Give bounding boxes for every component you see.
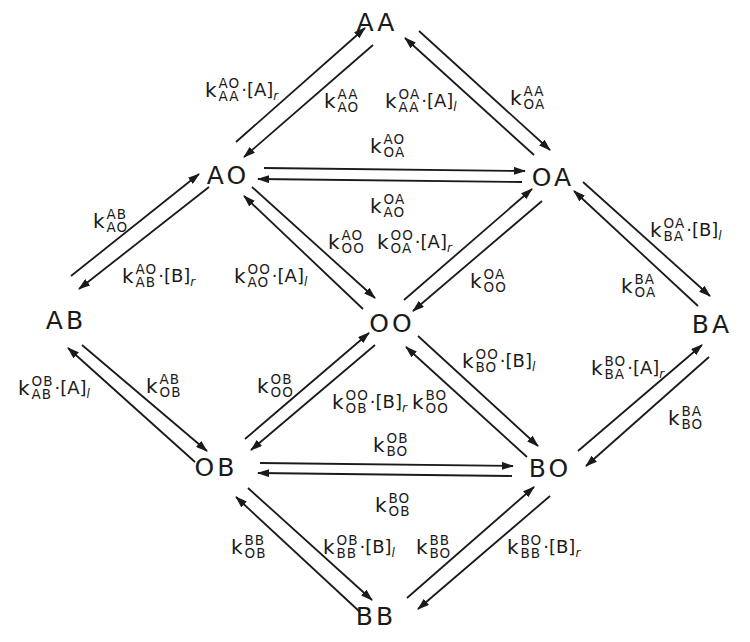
rate-label-ao-from-ab: k ABAO: [93, 208, 128, 234]
rate-label-ao-from-aa: k AAAO: [324, 88, 359, 114]
rate-label-ab-from-ob: k OBAB ·[A]l: [18, 375, 90, 401]
arrow-ab-to-ao: [71, 174, 199, 276]
rate-label-oo-from-ob: k OBOO: [257, 373, 294, 399]
arrow-ob-to-ab: [68, 348, 195, 462]
arrow-ob-to-bo: [260, 463, 513, 466]
state-node-ao: AO: [207, 163, 249, 188]
rate-label-oa-from-ba: k BAOA: [621, 273, 656, 299]
rate-label-aa-from-oa: k OAAA ·[A]l: [385, 88, 457, 114]
rate-label-ba-from-oa: k OABA ·[B]l: [650, 217, 722, 243]
rate-label-bo-from-bb: k BBBO: [416, 534, 451, 560]
rate-label-ob-from-ab: k ABOB: [146, 373, 181, 399]
arrow-ab-to-ob: [82, 345, 207, 451]
rate-label-oa-from-ao: k AOOA: [370, 133, 405, 159]
state-node-ob: OB: [195, 455, 238, 480]
rate-label-bo-from-ob: k OBBO: [373, 432, 408, 458]
rate-label-oo-from-oa: k OAOO: [470, 268, 507, 294]
arrow-bo-to-ob: [258, 473, 512, 476]
rate-label-bo-from-ba: k BABO: [668, 405, 703, 431]
rate-label-aa-from-ao: k AOAA ·[A]r: [205, 77, 278, 103]
arrow-ao-to-oa: [264, 168, 525, 171]
rate-label-oo-from-bo: k BOOO: [412, 389, 449, 415]
rate-label-oa-from-aa: k AAOA: [510, 85, 545, 111]
state-node-oa: OA: [532, 165, 574, 190]
rate-label-ob-from-bo: k BOOB: [375, 492, 410, 518]
state-node-aa: AA: [357, 10, 398, 35]
rate-label-bb-from-ob: k OBBB ·[B]l: [323, 534, 395, 560]
rate-label-oa-from-oo: k OOOA ·[A]r: [377, 229, 452, 255]
rate-label-ab-from-ao: k AOAB ·[B]r: [122, 263, 195, 289]
arrow-oa-to-ao: [258, 179, 522, 182]
rate-label-bb-from-bo: k BOBB ·[B]r: [507, 534, 580, 560]
state-node-ab: AB: [46, 308, 86, 333]
state-node-bo: BO: [529, 456, 571, 481]
rate-label-bo-from-oo: k OOBO ·[B]l: [462, 348, 535, 374]
state-node-oo: OO: [369, 311, 414, 336]
rate-label-ao-from-oa: k OAAO: [370, 193, 405, 219]
arrow-oa-to-oo: [413, 201, 542, 311]
state-node-ba: BA: [692, 312, 732, 337]
rate-label-oo-from-ao: k AOOO: [328, 229, 365, 255]
rate-label-ob-from-bb: k BBOB: [231, 534, 266, 560]
rate-label-ba-from-bo: k BOBA ·[A]r: [591, 355, 664, 381]
state-node-bb: BB: [356, 604, 396, 629]
rate-label-ob-from-oo: k OOOB ·[B]r: [332, 389, 407, 415]
rate-label-ao-from-oo: k OOAO ·[A]l: [234, 263, 307, 289]
